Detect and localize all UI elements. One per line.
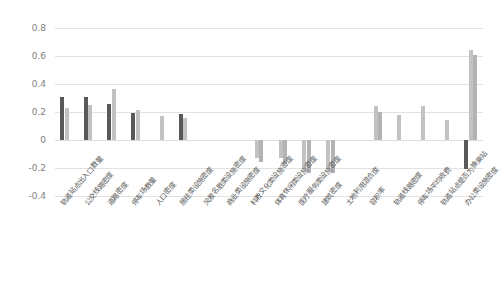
- gridline--0.2: [55, 168, 483, 169]
- gridline-0.6: [55, 56, 483, 57]
- bar: [136, 110, 140, 140]
- gridline-0.8: [55, 28, 483, 29]
- gridline-0: [55, 140, 483, 141]
- gridline-0.2: [55, 112, 483, 113]
- bar: [445, 120, 449, 140]
- bar: [397, 115, 401, 140]
- bar: [183, 118, 187, 140]
- bar: [112, 89, 116, 140]
- gridline-0.4: [55, 84, 483, 85]
- y-tick-label: 0: [0, 135, 46, 145]
- y-tick-label: 0.2: [0, 107, 46, 117]
- bar: [255, 140, 259, 158]
- y-tick-label: -0.4: [0, 191, 46, 201]
- bar: [88, 105, 92, 140]
- y-tick-label: 0.6: [0, 51, 46, 61]
- bar: [65, 108, 69, 140]
- bar: [374, 106, 378, 140]
- bar: [84, 97, 88, 140]
- bar: [131, 113, 135, 140]
- bar: [421, 106, 425, 140]
- y-tick-label: -0.2: [0, 163, 46, 173]
- bar: [259, 140, 263, 162]
- bar: [473, 55, 477, 140]
- bar: [279, 140, 283, 158]
- bar: [107, 104, 111, 140]
- bar: [469, 50, 473, 140]
- bar: [378, 112, 382, 140]
- y-tick-label: 0.4: [0, 79, 46, 89]
- y-tick-label: 0.8: [0, 23, 46, 33]
- bar: [179, 114, 183, 140]
- bar: [160, 116, 164, 140]
- bar: [60, 97, 64, 140]
